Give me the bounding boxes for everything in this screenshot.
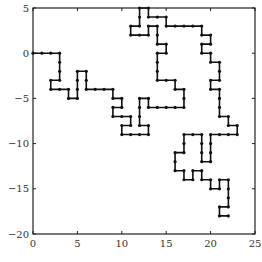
walk-step-dot <box>67 97 70 100</box>
walk-step-dot <box>236 124 239 127</box>
walk-step-dot <box>76 70 79 73</box>
walk-step-dot <box>173 106 176 109</box>
walk-step-dot <box>227 214 230 217</box>
walk-step-dot <box>227 115 230 118</box>
walk-step-dot <box>227 196 230 199</box>
walk-step-dot <box>182 142 185 145</box>
walk-step-dot <box>138 24 141 27</box>
walk-step-dot <box>85 70 88 73</box>
walk-step-dot <box>191 133 194 136</box>
walk-step-dot <box>138 106 141 109</box>
walk-step-dot <box>120 97 123 100</box>
walk-step-dot <box>147 106 150 109</box>
walk-step-dot <box>200 52 203 55</box>
walk-step-markers <box>31 6 238 217</box>
walk-step-dot <box>182 178 185 181</box>
walk-step-dot <box>85 88 88 91</box>
x-tick-label: 25 <box>249 238 262 249</box>
y-tick-label: 0 <box>23 48 29 59</box>
walk-step-dot <box>111 88 114 91</box>
walk-step-dot <box>218 79 221 82</box>
walk-step-dot <box>156 43 159 46</box>
walk-step-dot <box>200 133 203 136</box>
x-tick-label: 5 <box>74 238 80 249</box>
walk-step-dot <box>58 70 61 73</box>
walk-step-dot <box>173 79 176 82</box>
walk-step-dot <box>147 133 150 136</box>
walk-step-dot <box>138 15 141 18</box>
walk-step-dot <box>218 187 221 190</box>
walk-step-dot <box>227 124 230 127</box>
walk-step-dot <box>182 169 185 172</box>
walk-step-dot <box>138 115 141 118</box>
walk-step-dot <box>200 169 203 172</box>
walk-step-dot <box>138 124 141 127</box>
walk-step-dot <box>182 97 185 100</box>
walk-step-dot <box>147 15 150 18</box>
walk-step-dot <box>165 24 168 27</box>
walk-step-dot <box>138 97 141 100</box>
walk-step-dot <box>76 88 79 91</box>
walk-step-dot <box>200 151 203 154</box>
walk-step-dot <box>218 88 221 91</box>
walk-step-dot <box>218 205 221 208</box>
walk-step-dot <box>94 88 97 91</box>
walk-step-dot <box>218 70 221 73</box>
walk-step-dot <box>165 106 168 109</box>
walk-step-dot <box>120 106 123 109</box>
walk-step-dot <box>156 15 159 18</box>
walk-step-dot <box>173 24 176 27</box>
walk-step-dot <box>129 34 132 37</box>
random-walk-chart: 051015202550−5−10−15−20 <box>0 0 262 262</box>
walk-step-dot <box>111 106 114 109</box>
walk-step-dot <box>147 24 150 27</box>
walk-step-dot <box>102 88 105 91</box>
walk-step-dot <box>120 124 123 127</box>
walk-step-dot <box>165 43 168 46</box>
walk-step-dot <box>173 88 176 91</box>
walk-step-dot <box>173 151 176 154</box>
walk-step-dot <box>227 187 230 190</box>
y-tick-label: −10 <box>8 138 29 149</box>
walk-step-dot <box>120 115 123 118</box>
walk-step-dot <box>191 178 194 181</box>
walk-step-dot <box>76 79 79 82</box>
plot-frame <box>33 8 255 234</box>
walk-step-dot <box>76 97 79 100</box>
walk-step-dot <box>209 151 212 154</box>
walk-step-dot <box>156 106 159 109</box>
walk-step-dot <box>58 79 61 82</box>
walk-step-dot <box>129 24 132 27</box>
walk-step-dot <box>218 61 221 64</box>
walk-step-dot <box>156 24 159 27</box>
walk-step-dot <box>200 24 203 27</box>
walk-step-dot <box>209 160 212 163</box>
walk-step-dot <box>31 52 34 55</box>
walk-step-dot <box>111 97 114 100</box>
walk-step-dot <box>191 169 194 172</box>
walk-step-dot <box>40 52 43 55</box>
walk-step-dot <box>111 115 114 118</box>
walk-step-dot <box>209 34 212 37</box>
axis-ticks <box>33 8 255 234</box>
walk-step-dot <box>218 214 221 217</box>
walk-step-dot <box>156 61 159 64</box>
y-tick-label: −5 <box>14 93 29 104</box>
walk-step-dot <box>209 88 212 91</box>
walk-step-dot <box>129 124 132 127</box>
walk-step-dot <box>85 79 88 82</box>
walk-step-dot <box>156 52 159 55</box>
walk-step-dot <box>165 15 168 18</box>
walk-step-dot <box>209 142 212 145</box>
walk-step-dot <box>147 34 150 37</box>
walk-step-dot <box>200 178 203 181</box>
walk-step-dot <box>120 133 123 136</box>
walk-step-dot <box>209 133 212 136</box>
x-tick-label: 20 <box>204 238 217 249</box>
walk-step-dot <box>209 52 212 55</box>
walk-step-dot <box>182 24 185 27</box>
walk-step-dot <box>156 70 159 73</box>
x-tick-label: 10 <box>115 238 128 249</box>
walk-step-dot <box>49 52 52 55</box>
walk-step-dot <box>182 88 185 91</box>
